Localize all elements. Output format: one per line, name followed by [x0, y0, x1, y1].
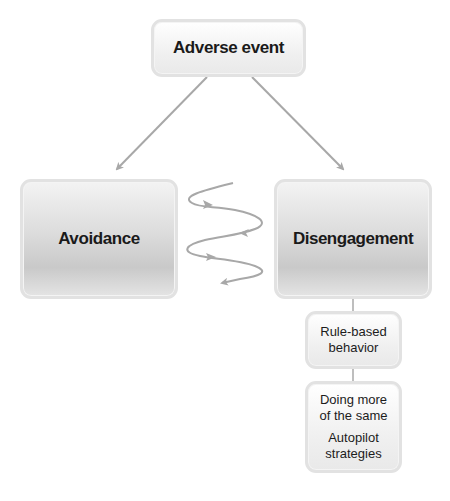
adverse-event-label: Adverse event: [173, 38, 284, 58]
rule-based-behavior-node: Rule-based behavior: [305, 311, 402, 369]
spiral-arrow: [187, 183, 262, 283]
avoidance-label: Avoidance: [58, 229, 140, 249]
strategies-node: Doing more of the same Autopilot strateg…: [305, 381, 402, 473]
avoidance-node: Avoidance: [20, 179, 178, 299]
rule-based-line2: behavior: [329, 340, 379, 356]
disengagement-node: Disengagement: [274, 179, 432, 299]
arrow-to-disengagement: [252, 77, 343, 169]
spiral-arrowhead-2: [239, 229, 249, 237]
disengagement-label: Disengagement: [293, 229, 413, 249]
autopilot-line1: Autopilot: [328, 430, 379, 446]
autopilot-line2: strategies: [325, 446, 381, 462]
doing-more-line2: of the same: [320, 408, 388, 424]
doing-more-line1: Doing more: [320, 392, 387, 408]
adverse-event-node: Adverse event: [151, 19, 306, 77]
rule-based-line1: Rule-based: [320, 324, 387, 340]
arrow-to-avoidance: [117, 77, 207, 169]
